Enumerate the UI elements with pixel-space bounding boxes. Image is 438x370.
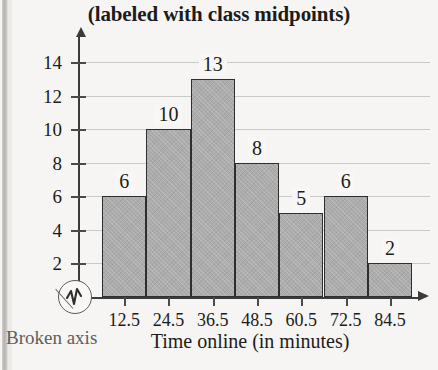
x-axis-tick-label: 48.5 (241, 310, 273, 330)
histogram-bar (368, 263, 412, 297)
gridline (78, 62, 430, 63)
y-axis-tick-label: 4 (53, 221, 63, 241)
scan-edge-artifact-inner (8, 0, 12, 370)
y-axis (78, 36, 80, 298)
y-axis-tick: 8 (71, 163, 86, 165)
histogram-bar (279, 213, 323, 297)
x-axis-tick (301, 297, 303, 306)
x-axis-tick-label: 72.5 (330, 310, 362, 330)
bar-value-label: 8 (248, 138, 266, 159)
x-axis-tick (124, 297, 126, 306)
y-axis-tick-label: 2 (53, 254, 63, 274)
y-axis-arrow-icon (76, 27, 86, 37)
y-axis-tick: 2 (71, 263, 86, 265)
bar-value-label: 5 (292, 188, 310, 209)
y-axis-tick: 14 (71, 62, 86, 64)
x-axis-tick-label: 24.5 (153, 310, 185, 330)
x-axis-tick (346, 297, 348, 306)
histogram-bar (146, 129, 190, 297)
histogram-bar (102, 196, 146, 297)
y-axis-tick: 6 (71, 196, 86, 198)
x-axis-tick (213, 297, 215, 306)
chart-title: (labeled with class midpoints) (0, 2, 438, 27)
bar-value-label: 6 (337, 171, 355, 192)
y-axis-tick-label: 8 (53, 154, 63, 174)
y-axis-tick: 4 (71, 230, 86, 232)
y-axis-tick: 10 (71, 129, 86, 131)
gridline (78, 129, 430, 130)
y-axis-tick: 12 (71, 96, 86, 98)
x-axis-tick-label: 36.5 (197, 310, 229, 330)
x-axis-tick-label: 60.5 (286, 310, 318, 330)
x-axis-arrow-icon (418, 291, 429, 301)
y-axis-tick-label: 6 (53, 187, 63, 207)
plot-area: 2468101214612.51024.51336.5848.5560.5672… (78, 36, 430, 298)
x-axis (78, 297, 418, 299)
histogram-bar (235, 163, 279, 297)
bar-value-label: 13 (199, 54, 227, 75)
x-axis-tick (257, 297, 259, 306)
gridline (78, 96, 430, 97)
x-axis-tick-label: 84.5 (374, 310, 406, 330)
histogram-bar (191, 79, 235, 297)
histogram-bar (324, 196, 368, 297)
histogram-figure: (labeled with class midpoints) 246810121… (0, 0, 438, 370)
x-axis-tick-label: 12.5 (108, 310, 140, 330)
bar-value-label: 10 (154, 104, 182, 125)
x-axis-title: Time online (in minutes) (100, 330, 400, 353)
broken-axis-label: Broken axis (6, 327, 97, 349)
bar-value-label: 6 (115, 171, 133, 192)
bar-value-label: 2 (381, 238, 399, 259)
y-axis-tick-label: 14 (43, 53, 62, 73)
x-axis-tick (390, 297, 392, 306)
x-axis-tick (168, 297, 170, 306)
y-axis-tick-label: 10 (43, 120, 62, 140)
y-axis-tick-label: 12 (43, 87, 62, 107)
